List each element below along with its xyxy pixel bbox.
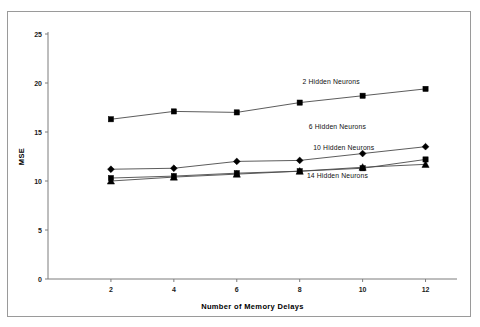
data-point-square (297, 100, 302, 105)
chart-axes (48, 32, 457, 279)
data-point-diamond (359, 150, 366, 157)
x-tick-label: 2 (109, 286, 113, 293)
figure-frame: 0510152025 24681012 2 Hidden Neurons6 Hi… (7, 11, 471, 317)
x-axis-title: Number of Memory Delays (201, 302, 304, 311)
data-point-square (171, 109, 176, 114)
data-point-diamond (422, 143, 429, 150)
series-annotation-label: 6 Hidden Neurons (309, 123, 367, 130)
x-tick-label: 8 (298, 286, 302, 293)
y-tick-label: 5 (38, 227, 42, 234)
y-axis-title: MSE (17, 148, 26, 165)
x-tick-label: 12 (422, 286, 430, 293)
data-point-diamond (296, 157, 303, 164)
y-tick-label: 15 (34, 129, 42, 136)
data-point-diamond (170, 165, 177, 172)
line-chart: 0510152025 24681012 2 Hidden Neurons6 Hi… (8, 12, 470, 316)
y-axis-ticks: 0510152025 (34, 31, 48, 283)
series-polyline (111, 164, 426, 181)
data-point-square (423, 86, 428, 91)
x-tick-label: 6 (235, 286, 239, 293)
series-annotation-label: 2 Hidden Neurons (303, 78, 361, 85)
data-point-square (360, 93, 365, 98)
series-polyline (111, 89, 426, 119)
series-lines (111, 89, 426, 181)
data-point-square (108, 117, 113, 122)
scan-ghost-text: · · · · (0, 0, 19, 3)
x-tick-label: 4 (172, 286, 176, 293)
y-tick-label: 0 (38, 276, 42, 283)
data-point-diamond (108, 166, 115, 173)
y-tick-label: 10 (34, 178, 42, 185)
series-annotation-label: 10 Hidden Neurons (313, 144, 375, 151)
data-point-diamond (233, 158, 240, 165)
x-axis-ticks: 24681012 (109, 279, 430, 293)
y-tick-label: 25 (34, 31, 42, 38)
series-annotation-label: 14 Hidden Neurons (307, 172, 369, 179)
data-point-square (234, 110, 239, 115)
y-tick-label: 20 (34, 80, 42, 87)
x-tick-label: 10 (359, 286, 367, 293)
series-markers (107, 86, 429, 184)
